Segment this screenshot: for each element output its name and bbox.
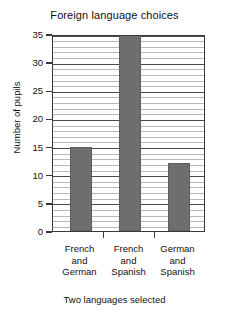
bar [168, 163, 190, 231]
bar [119, 35, 141, 231]
y-axis-tick-label: 25 [19, 86, 43, 96]
y-axis-tick-label: 15 [19, 143, 43, 153]
x-axis-tick [154, 232, 155, 238]
x-axis-category-line: Spanish [147, 266, 209, 278]
y-axis-tick-label: 20 [19, 114, 43, 124]
x-axis-tick [103, 232, 104, 238]
y-axis-tick-label: 0 [19, 227, 43, 237]
plot-area [52, 35, 205, 232]
x-axis-category-label: GermanandSpanish [147, 243, 209, 278]
y-axis-tick-label: 5 [19, 199, 43, 209]
y-axis-tick-label: 35 [19, 30, 43, 40]
x-axis-category-line: and [147, 255, 209, 267]
y-axis-tick-label: 10 [19, 171, 43, 181]
bar [70, 147, 92, 231]
y-axis-tick-label: 30 [19, 58, 43, 68]
chart-title: Foreign language choices [0, 9, 229, 21]
x-axis-title: Two languages selected [0, 294, 229, 305]
bars [53, 36, 204, 231]
bar-chart-figure: Foreign language choices Number of pupil… [0, 0, 229, 316]
x-axis-category-line: German [147, 243, 209, 255]
